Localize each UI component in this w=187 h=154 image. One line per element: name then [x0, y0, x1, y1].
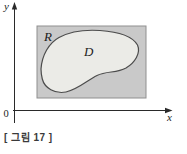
region-D-label: D	[83, 44, 94, 59]
origin-label: 0	[4, 108, 9, 119]
rectangle-R-label: R	[43, 29, 52, 44]
y-axis-label: y	[3, 0, 9, 12]
figure-caption: [ 그림 17 ]	[4, 131, 53, 145]
x-axis-label: x	[166, 111, 172, 123]
y-axis-arrowhead	[12, 2, 17, 10]
figure-17-diagram: y x 0 R D [ 그림 17 ]	[0, 0, 187, 154]
